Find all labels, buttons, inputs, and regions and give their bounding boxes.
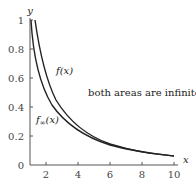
x-axis-label: x <box>183 154 189 165</box>
y-ticks: 0 0.2 0.4 0.6 0.8 1 <box>8 15 33 171</box>
x-tick-label: 10 <box>168 169 181 180</box>
chart: 0 0.2 0.4 0.6 0.8 1 2 4 6 8 10 x y f(x) … <box>0 0 196 186</box>
x-tick-label: 4 <box>75 169 81 180</box>
f-inf-label: f∞(x) <box>35 114 59 127</box>
annotation: both areas are infinite <box>88 87 196 98</box>
y-tick-label: 0.4 <box>8 102 24 113</box>
y-tick-label: 0 <box>18 160 24 171</box>
y-axis-label: y <box>26 5 33 16</box>
y-tick-label: 0.6 <box>8 73 24 84</box>
x-tick-label: 8 <box>139 169 145 180</box>
y-tick-label: 0.8 <box>8 44 24 55</box>
y-tick-label: 0.2 <box>8 131 24 142</box>
y-tick-label: 1 <box>18 15 24 26</box>
f-label: f(x) <box>55 65 73 76</box>
x-tick-label: 2 <box>43 169 49 180</box>
x-tick-label: 6 <box>107 169 113 180</box>
